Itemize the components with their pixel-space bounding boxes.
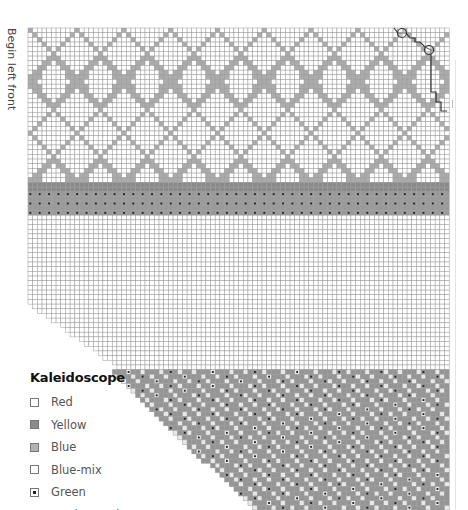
legend-item-yellow: Yellow xyxy=(30,414,150,437)
legend-item-border-marker: Border marker xyxy=(30,504,150,510)
page-edge-rule xyxy=(455,60,456,510)
filled-square-icon xyxy=(30,420,39,429)
empty-square-icon xyxy=(30,465,39,474)
legend-item-blue-mix: Blue-mix xyxy=(30,459,150,482)
legend-item-blue: Blue xyxy=(30,436,150,459)
empty-square-icon xyxy=(30,398,39,407)
filled-square-icon xyxy=(30,443,39,452)
legend: Kaleidoscope Red Yellow Blue Blue-mix Gr… xyxy=(30,370,150,510)
legend-item-red: Red xyxy=(30,391,150,414)
legend-item-green: Green xyxy=(30,481,150,504)
page-edge-tick xyxy=(452,100,457,108)
dot-square-icon xyxy=(30,488,39,497)
legend-title: Kaleidoscope xyxy=(30,370,150,385)
